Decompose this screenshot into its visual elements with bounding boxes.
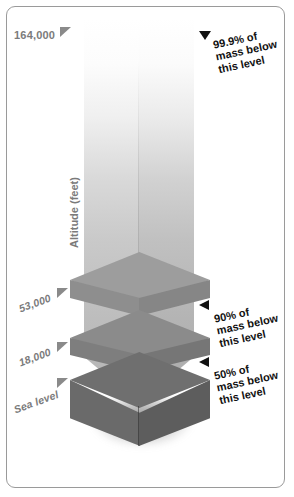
triangle-right-icon-53000 xyxy=(57,288,68,298)
altitude-label-164000: 164,000 xyxy=(14,29,55,41)
triangle-down-icon-999 xyxy=(199,31,211,40)
isometric-column-diagram xyxy=(0,0,294,497)
triangle-right-icon-164000 xyxy=(60,27,71,37)
base-block-front-edge xyxy=(138,406,139,446)
y-axis-label: Altitude (feet) xyxy=(68,177,80,248)
triangle-right-icon-sea-level xyxy=(57,378,68,388)
triangle-left-icon-50 xyxy=(199,357,209,367)
atmosphere-altitude-figure: 164,000 53,000 18,000 Sea level Altitude… xyxy=(0,0,294,497)
triangle-left-icon-90 xyxy=(199,300,209,310)
triangle-right-icon-18000 xyxy=(57,342,68,352)
